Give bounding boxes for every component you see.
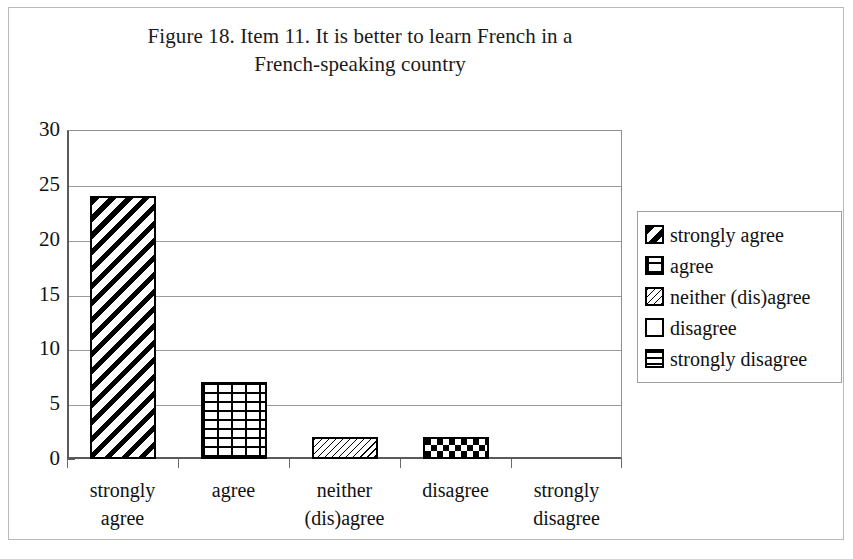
legend-swatch-diagonal-stripes-icon [645,225,664,244]
gridline-10 [69,350,621,351]
legend-item-disagree[interactable]: disagree [645,312,835,343]
plot-area [67,130,622,459]
x-axis-label-line: neither [289,476,400,504]
x-axis-label-strongly-disagree: stronglydisagree [511,476,622,546]
x-axis-label-strongly-agree: stronglyagree [67,476,178,546]
y-tick-label-10: 10 [14,338,60,359]
legend-label: disagree [670,318,737,338]
legend-label: neither (dis)agree [670,287,810,307]
y-tick-label-0: 0 [14,448,60,469]
x-tick-mark-0 [67,459,68,468]
legend-label: strongly disagree [670,349,807,369]
x-axis-label-line: strongly [511,476,622,504]
x-tick-mark-3 [400,459,401,468]
x-axis-label-line: agree [67,504,178,532]
legend-swatch-checkerboard-icon [645,318,664,337]
x-axis-label-neither-dis-agree: neither(dis)agree [289,476,400,546]
legend-swatch-fine-hatch-icon [645,287,664,306]
x-axis-label-line: disagree [400,476,511,504]
y-tick-label-25: 25 [14,174,60,195]
x-axis-ticks [67,459,622,468]
y-tick-label-20: 20 [14,229,60,250]
legend-item-strongly-agree[interactable]: strongly agree [645,219,835,250]
legend-label: agree [670,256,713,276]
x-tick-mark-2 [289,459,290,468]
y-tick-label-30: 30 [14,119,60,140]
chart-legend: strongly agreeagreeneither (dis)agreedis… [637,211,842,383]
gridline-25 [69,186,621,187]
legend-swatch-horizontal-lines-icon [645,349,664,368]
x-tick-mark-5 [621,459,622,468]
figure-page: Figure 18. Item 11. It is better to lear… [0,0,853,559]
x-axis-label-disagree: disagree [400,476,511,546]
x-tick-mark-4 [511,459,512,468]
y-tick-label-15: 15 [14,284,60,305]
y-tick-label-5: 5 [14,393,60,414]
chart-title-line-2: French-speaking country [60,50,660,78]
x-axis-label-line: strongly [67,476,178,504]
x-tick-mark-1 [178,459,179,468]
legend-item-agree[interactable]: agree [645,250,835,281]
x-axis-label-line: disagree [511,504,622,532]
chart-title: Figure 18. Item 11. It is better to lear… [60,22,660,78]
legend-label: strongly agree [670,225,784,245]
x-axis-label-line: agree [178,476,289,504]
x-axis-label-agree: agree [178,476,289,546]
legend-swatch-brick-icon [645,256,664,275]
gridline-15 [69,296,621,297]
gridline-20 [69,241,621,242]
y-axis: 302520151050 [8,130,60,459]
legend-item-strongly-disagree[interactable]: strongly disagree [645,343,835,374]
x-axis-labels: stronglyagreeagreeneither(dis)agreedisag… [67,476,622,546]
gridline-5 [69,405,621,406]
legend-item-neither-dis-agree[interactable]: neither (dis)agree [645,281,835,312]
chart-title-line-1: Figure 18. Item 11. It is better to lear… [60,22,660,50]
x-axis-label-line: (dis)agree [289,504,400,532]
